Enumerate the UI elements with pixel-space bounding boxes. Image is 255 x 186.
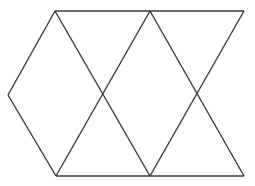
figure-background	[0, 0, 255, 186]
geometric-net-figure	[0, 0, 255, 186]
